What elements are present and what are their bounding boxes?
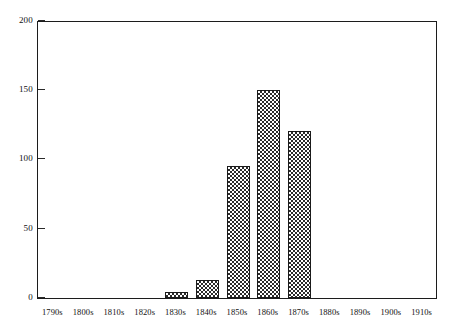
x-label-1790s: 1790s — [42, 306, 63, 318]
x-label-1810s: 1810s — [104, 306, 125, 318]
bar-1840s — [196, 280, 219, 298]
x-label-1800s: 1800s — [73, 306, 94, 318]
bar-chart-figure: 0 50 100 150 200 1790s1800s1810s1820s183… — [0, 0, 453, 334]
bar-1830s — [165, 292, 188, 298]
x-label-1820s: 1820s — [134, 306, 155, 318]
y-tick-label-100: 100 — [19, 152, 33, 165]
x-axis-labels: 1790s1800s1810s1820s1830s1840s1850s1860s… — [37, 306, 437, 322]
x-label-1830s: 1830s — [165, 306, 186, 318]
x-label-1910s: 1910s — [411, 306, 432, 318]
y-tick-label-200: 200 — [19, 14, 33, 27]
bar-1860s — [257, 90, 280, 299]
x-label-1840s: 1840s — [196, 306, 217, 318]
x-label-1900s: 1900s — [380, 306, 401, 318]
plot-area-frame: 0 50 100 150 200 — [37, 21, 437, 299]
y-tick-label-50: 50 — [24, 222, 33, 235]
x-label-1880s: 1880s — [319, 306, 340, 318]
y-tick-200: 200 — [38, 20, 45, 21]
x-label-1860s: 1860s — [257, 306, 278, 318]
y-tick-label-0: 0 — [28, 291, 33, 304]
y-tick-label-150: 150 — [19, 83, 33, 96]
bars-layer — [38, 22, 436, 298]
x-label-1850s: 1850s — [227, 306, 248, 318]
bar-1850s — [227, 166, 250, 298]
bar-1870s — [288, 131, 311, 298]
x-label-1870s: 1870s — [288, 306, 309, 318]
x-label-1890s: 1890s — [350, 306, 371, 318]
